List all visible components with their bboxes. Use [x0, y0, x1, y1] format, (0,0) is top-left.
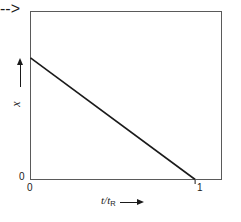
- x-axis-tick-label-1: 1: [197, 183, 203, 193]
- x-axis-arrow-icon: [120, 199, 146, 206]
- x-axis-title-text: t/tR: [101, 194, 116, 210]
- figure-container: 0 0 1 --> t/tR x: [0, 0, 241, 222]
- y-axis-title: x: [6, 58, 32, 118]
- y-axis-arrow-icon: [17, 58, 25, 88]
- x-axis-title: t/tR: [101, 194, 146, 210]
- data-line-conversion-decay: [31, 58, 196, 180]
- x-axis-tick-label-0: 0: [27, 183, 33, 193]
- plot-canvas: [0, 0, 241, 222]
- y-axis-title-text: x: [10, 101, 22, 106]
- x-axis-title-subscript: R: [110, 199, 115, 208]
- y-axis-tick-label-0: 0: [19, 172, 25, 182]
